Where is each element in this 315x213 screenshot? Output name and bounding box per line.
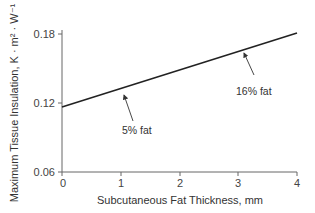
x-tick-label: 4 <box>294 177 300 189</box>
y-tick-label: 0.12 <box>34 97 55 109</box>
annotation-label: 16% fat <box>236 85 272 97</box>
x-tick-label: 0 <box>60 177 66 189</box>
x-tick-label: 2 <box>177 177 183 189</box>
arrow-icon <box>124 95 133 121</box>
annotation-5-fat: 5% fat <box>122 95 152 136</box>
x-axis-title: Subcutaneous Fat Thickness, mm <box>97 194 263 206</box>
x-tick-label: 3 <box>235 177 241 189</box>
x-tick-label: 1 <box>118 177 124 189</box>
annotation-16-fat: 16% fat <box>236 53 272 97</box>
y-axis-title: Maximum Tissue Insulation, K · m² · W⁻¹ <box>8 3 20 202</box>
chart: 0.18 0.12 0.06 Maximum Tissue Insulation… <box>0 0 315 213</box>
y-axis: 0.18 0.12 0.06 Maximum Tissue Insulation… <box>8 3 62 202</box>
y-tick-label: 0.18 <box>34 28 55 40</box>
y-tick-label: 0.06 <box>34 166 55 178</box>
arrow-icon <box>244 53 254 75</box>
x-axis: 0 1 2 3 4 Subcutaneous Fat Thickness, mm <box>60 172 300 206</box>
annotation-label: 5% fat <box>122 124 152 136</box>
